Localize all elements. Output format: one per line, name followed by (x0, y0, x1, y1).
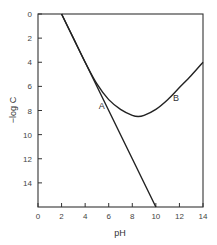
x-tick-label: 8 (130, 212, 135, 221)
y-axis-title: −log C (8, 96, 18, 123)
y-tick-label: 10 (23, 131, 32, 140)
y-tick-label: 2 (28, 34, 33, 43)
y-tick-label: 4 (28, 58, 33, 67)
x-tick-label: 12 (175, 212, 184, 221)
plot-border (38, 14, 203, 207)
x-axis-title: pH (114, 228, 126, 238)
series-b-line (62, 14, 203, 117)
y-tick-label: 12 (23, 155, 32, 164)
y-tick-label: 8 (28, 107, 33, 116)
x-tick-label: 2 (59, 212, 64, 221)
y-tick-label: 0 (28, 10, 33, 19)
x-tick-label: 14 (199, 212, 208, 221)
x-tick-label: 6 (106, 212, 111, 221)
chart: 02468101214 02468101214 AB pH −log C (0, 0, 217, 245)
plot-frame (38, 14, 203, 207)
y-tick-label: 6 (28, 82, 33, 91)
y-tick-label: 14 (23, 179, 32, 188)
x-axis: 02468101214 (36, 203, 208, 221)
curve-label-a: A (99, 101, 105, 111)
y-axis: 02468101214 (23, 10, 42, 188)
series-group (62, 14, 203, 207)
x-tick-label: 10 (151, 212, 160, 221)
x-tick-label: 0 (36, 212, 41, 221)
x-tick-label: 4 (83, 212, 88, 221)
curve-label-b: B (173, 93, 179, 103)
